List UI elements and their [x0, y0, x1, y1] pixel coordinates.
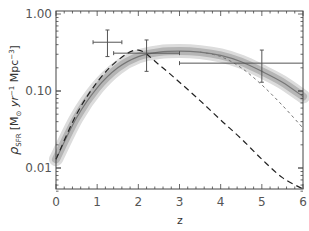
y-title-mpc: Mpc — [8, 60, 21, 86]
y-tick-label: 0.01 — [25, 161, 52, 175]
x-tick-label: 1 — [93, 195, 101, 209]
y-title-mpc-exp: −3 — [8, 49, 16, 59]
y-title-units-close: ] — [8, 45, 21, 49]
x-tick-label: 4 — [217, 195, 225, 209]
y-tick-label: 0.10 — [25, 84, 52, 98]
tick-labels-layer: 01234560.010.101.00 — [25, 7, 307, 209]
x-tick-label: 3 — [176, 195, 184, 209]
x-tick-label: 0 — [52, 195, 60, 209]
y-axis-title: ρSFR[M⊙ yr−1 Mpc−3] — [6, 45, 23, 155]
y-title-sub: SFR — [15, 133, 23, 146]
svg-text:ρSFR[M⊙ yr−1 Mpc−3]: ρSFR[M⊙ yr−1 Mpc−3] — [6, 45, 23, 155]
x-tick-label: 2 — [135, 195, 143, 209]
y-title-units-open: [M — [8, 116, 21, 130]
y-tick-label: 1.00 — [25, 7, 52, 21]
model-band-outer — [56, 51, 303, 159]
data-point — [93, 30, 122, 57]
x-tick-label: 5 — [258, 195, 266, 209]
x-tick-label: 6 — [299, 195, 307, 209]
x-axis-title: z — [177, 214, 183, 227]
model-band-layer — [56, 51, 303, 159]
y-title-yr-exp: −1 — [8, 86, 16, 96]
sfr-chart: 01234560.010.101.00 z ρSFR[M⊙ yr−1 Mpc−3… — [0, 0, 309, 231]
